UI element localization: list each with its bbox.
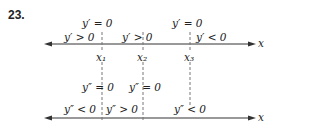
top-axis-x-label: x bbox=[258, 37, 264, 49]
point-x1: x₁ bbox=[96, 51, 106, 63]
top-sign-label-1: y′ > 0 bbox=[64, 31, 94, 43]
point-x2: x₂ bbox=[137, 51, 147, 63]
bottom-axis-right-arrow-icon bbox=[248, 116, 256, 121]
bottom-inflection-label-1: y″ = 0 bbox=[82, 81, 114, 93]
top-axis-right-arrow-icon bbox=[248, 42, 256, 47]
bottom-axis-left-arrow-icon bbox=[44, 116, 52, 121]
top-sign-label-2: y′ > 0 bbox=[122, 31, 152, 43]
top-axis-left-arrow-icon bbox=[44, 42, 52, 47]
point-x3: x₃ bbox=[184, 51, 194, 63]
top-critical-label-2: y′ = 0 bbox=[172, 17, 202, 29]
bottom-axis-x-label: x bbox=[258, 111, 264, 123]
bottom-inflection-label-2: y″ = 0 bbox=[129, 81, 161, 93]
top-sign-label-3: y′ < 0 bbox=[196, 31, 226, 43]
top-critical-label-1: y′ = 0 bbox=[82, 17, 112, 29]
bottom-sign-label-2: y″ > 0 bbox=[106, 103, 138, 115]
bottom-sign-label-3: y″ < 0 bbox=[174, 103, 206, 115]
bottom-sign-label-1: y″ < 0 bbox=[64, 103, 96, 115]
